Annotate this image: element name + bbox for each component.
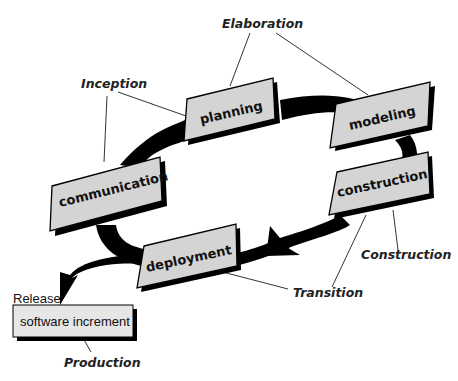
unified-process-diagram: communication planning modeling construc… [0, 0, 458, 381]
software-increment-label: software increment [20, 314, 130, 329]
software-increment-box[interactable]: software increment [13, 305, 137, 341]
activity-planning[interactable]: planning [184, 78, 280, 145]
activity-construction[interactable]: construction [329, 152, 434, 219]
phase-construction: Construction [361, 247, 451, 262]
phase-inception: Inception [81, 76, 147, 91]
activity-communication[interactable]: communication [50, 157, 169, 236]
phase-elaboration: Elaboration [222, 16, 303, 31]
activity-deployment[interactable]: deployment [137, 224, 241, 292]
activity-modeling[interactable]: modeling [330, 82, 435, 151]
phase-production: Production [64, 355, 141, 370]
phase-transition: Transition [293, 285, 363, 300]
release-label: Release [13, 291, 61, 306]
